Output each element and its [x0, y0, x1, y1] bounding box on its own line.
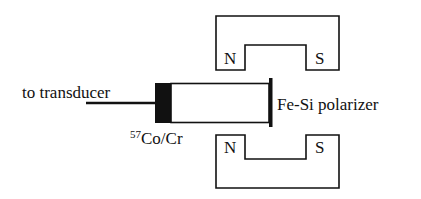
source-label: 57Co/Cr [130, 129, 183, 147]
polarizer-bar [269, 78, 273, 127]
top-magnet-south-pole: S [315, 50, 324, 67]
source-material: Co/Cr [141, 129, 183, 148]
isotope-mass-number: 57 [130, 128, 141, 140]
bottom-magnet-north-pole: N [224, 139, 236, 156]
bottom-magnet-south-pole: S [315, 139, 324, 156]
polarizer-label: Fe-Si polarizer [277, 96, 379, 113]
tube [171, 84, 269, 123]
source-block [155, 83, 171, 123]
top-magnet-north-pole: N [224, 50, 236, 67]
transducer-label: to transducer [22, 84, 110, 101]
